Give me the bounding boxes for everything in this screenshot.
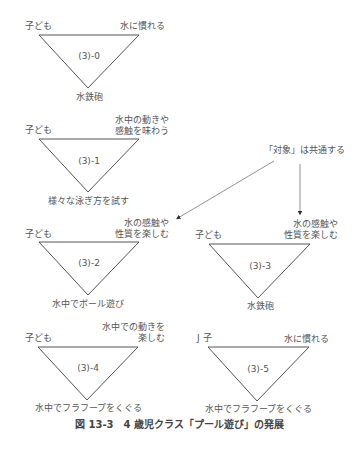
triangle-3-0-bottom-label: 水鉄砲: [76, 92, 103, 103]
triangle-3-2-right-label-1: 水の感触や: [124, 218, 169, 229]
triangle-3-3-right-label-2: 性質を楽しむ: [284, 230, 338, 241]
triangle-3-1-bottom-label: 様々な泳ぎ方を試す: [48, 196, 129, 207]
triangle-3-3-bottom-label: 水鉄砲: [247, 301, 274, 312]
triangle-3-0-left-label: 子ども: [25, 21, 52, 32]
triangle-3-2-bottom-label: 水中でボール遊び: [52, 299, 124, 310]
triangle-3-4-right-label-2: 楽しむ: [138, 333, 165, 344]
triangle-3-1-left-label: 子ども: [25, 125, 52, 136]
triangle-3-5-left-label: J 子: [197, 333, 212, 344]
triangle-3-0-right-label: 水に慣れる: [120, 21, 165, 32]
figure-caption: 図 13-3 4 歳児クラス「プール遊び」の発展: [0, 416, 359, 431]
triangle-3-2-left-label: 子ども: [25, 229, 52, 240]
annotation-shared-object: 「対象」は共通する: [264, 145, 345, 156]
triangle-3-0-id: (3)-0: [78, 51, 100, 62]
triangle-3-1-right-label-1: 水中の動きや: [115, 115, 169, 126]
triangle-3-2-id: (3)-2: [78, 258, 100, 269]
triangle-3-5-right-label: 水に慣れる: [284, 334, 329, 345]
triangle-3-3-left-label: 子ども: [195, 230, 222, 241]
triangle-3-4-id: (3)-4: [77, 363, 99, 374]
arrow-to-3-2: [178, 161, 274, 218]
triangle-3-5-id: (3)-5: [247, 364, 269, 375]
triangle-3-4-left-label: 子ども: [25, 333, 52, 344]
triangle-3-4-bottom-label: 水中でフラフープをくぐる: [35, 403, 142, 414]
triangle-3-3-right-label-1: 水の感触や: [293, 219, 338, 230]
triangle-3-4-right-label-1: 水中での動きを: [102, 322, 165, 333]
triangle-3-5-bottom-label: 水中でフラフープをくぐる: [205, 404, 312, 415]
triangle-3-1-right-label-2: 感触を味わう: [115, 126, 169, 137]
triangle-3-1-id: (3)-1: [78, 156, 100, 167]
triangle-3-3-id: (3)-3: [249, 261, 271, 272]
triangle-3-2-right-label-2: 性質を楽しむ: [115, 229, 169, 240]
